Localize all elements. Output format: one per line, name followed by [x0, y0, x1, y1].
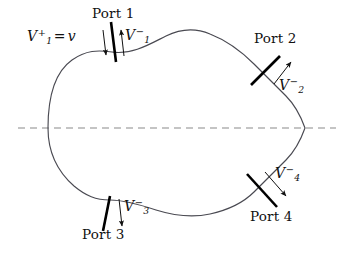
port4-reflected-label: V−4	[275, 166, 300, 180]
port1-incident-label: V+1=v	[27, 29, 76, 43]
port2-reference-line	[251, 56, 280, 85]
port-diagram-figure: Port 1 V+1=v V−1 Port 2 V−2 Port 3 V−3 P…	[0, 0, 348, 257]
port3-label: Port 3	[82, 228, 125, 242]
port4-reflected-symbol: V−4	[275, 166, 300, 180]
port3-reflected-label: V−3	[124, 199, 149, 213]
port4-reference-line	[247, 174, 277, 207]
port1-reflected-symbol: V−1	[125, 28, 150, 42]
port1-label: Port 1	[92, 7, 135, 21]
port1-reflected-label: V−1	[125, 28, 150, 42]
port2-label: Port 2	[254, 32, 297, 46]
port1-reference-line	[111, 22, 116, 62]
port3-reflected-symbol: V−3	[124, 199, 149, 213]
scatterer-outline-path	[48, 30, 305, 216]
port3-reflected-arrow	[119, 199, 122, 226]
port2-reflected-symbol: V−2	[279, 78, 304, 92]
port1-incident-symbol: V+1	[27, 29, 52, 43]
port2-reflected-label: V−2	[279, 78, 304, 92]
port4-label: Port 4	[250, 210, 293, 224]
